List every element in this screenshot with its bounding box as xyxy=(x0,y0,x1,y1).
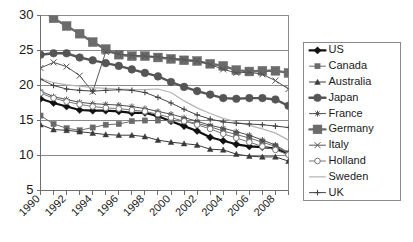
data-point-marker xyxy=(206,91,214,99)
series-layer xyxy=(36,4,293,163)
x-axis-label-1992: 1992 xyxy=(42,192,68,218)
data-point-marker xyxy=(155,118,160,123)
y-axis-label-25: 25 xyxy=(19,42,33,57)
data-point-marker xyxy=(233,135,239,141)
legend-label-italy: Italy xyxy=(329,138,350,150)
data-point-marker xyxy=(77,88,83,94)
legend-label-holland: Holland xyxy=(329,154,366,166)
data-point-marker xyxy=(116,121,121,126)
data-point-marker xyxy=(181,118,187,124)
chart-figure: 51015202530 1990199219941996199820002002… xyxy=(0,0,413,242)
data-point-marker xyxy=(90,104,96,110)
data-point-marker xyxy=(181,107,187,113)
data-point-marker xyxy=(272,96,280,104)
data-point-marker xyxy=(51,59,57,65)
ytick-labels: 51015202530 xyxy=(19,7,33,197)
legend-label-us: US xyxy=(329,43,344,55)
data-point-marker xyxy=(168,115,174,121)
x-axis-label-2008: 2008 xyxy=(251,192,277,218)
data-point-marker xyxy=(64,86,70,92)
data-point-marker xyxy=(62,22,71,31)
data-point-marker xyxy=(51,95,57,101)
data-point-marker xyxy=(232,95,240,103)
data-point-marker xyxy=(286,152,292,158)
data-point-marker xyxy=(286,125,292,131)
data-point-marker xyxy=(38,122,44,127)
data-point-marker xyxy=(180,83,188,91)
data-point-marker xyxy=(51,121,56,126)
legend: USCanadaAustraliaJapanFranceGermanyItaly… xyxy=(304,43,401,201)
data-point-marker xyxy=(285,102,293,110)
legend-label-australia: Australia xyxy=(329,75,373,87)
data-point-marker xyxy=(315,64,320,69)
data-point-marker xyxy=(129,88,135,94)
data-point-marker xyxy=(194,127,201,134)
series-line-germany xyxy=(41,9,289,73)
data-point-marker xyxy=(64,64,70,70)
legend-label-uk: UK xyxy=(329,186,345,198)
data-point-marker xyxy=(273,147,279,153)
legend-label-france: France xyxy=(329,107,363,119)
data-point-marker xyxy=(313,125,322,134)
data-point-marker xyxy=(260,144,266,150)
x-axis-label-1990: 1990 xyxy=(16,192,42,218)
data-point-marker xyxy=(194,122,200,128)
data-point-marker xyxy=(233,129,239,135)
data-point-marker xyxy=(154,73,162,81)
x-axis-label-1994: 1994 xyxy=(68,192,94,218)
y-axis-label-30: 30 xyxy=(19,7,33,22)
data-point-marker xyxy=(103,122,108,127)
legend-label-germany: Germany xyxy=(329,122,375,134)
data-point-marker xyxy=(207,116,213,122)
data-point-marker xyxy=(50,50,58,58)
x-axis-label-2000: 2000 xyxy=(147,192,173,218)
data-point-marker xyxy=(155,95,161,101)
data-point-marker xyxy=(314,94,322,102)
x-axis-label-2004: 2004 xyxy=(199,192,225,218)
data-point-marker xyxy=(207,134,214,141)
data-point-marker xyxy=(116,87,122,93)
data-point-marker xyxy=(75,29,84,38)
data-point-marker xyxy=(155,111,161,117)
data-point-marker xyxy=(273,123,279,129)
data-point-marker xyxy=(77,73,83,79)
legend-label-sweden: Sweden xyxy=(329,170,369,182)
data-point-marker xyxy=(129,119,134,124)
data-point-marker xyxy=(219,94,227,102)
data-point-marker xyxy=(246,94,254,102)
data-point-marker xyxy=(193,87,201,95)
data-point-marker xyxy=(194,112,200,118)
data-point-marker xyxy=(142,109,148,115)
y-axis-label-20: 20 xyxy=(19,77,33,92)
x-axis-label-2002: 2002 xyxy=(173,192,199,218)
data-point-marker xyxy=(271,66,280,75)
data-point-marker xyxy=(207,126,213,132)
x-axis-label-1996: 1996 xyxy=(94,192,120,218)
data-point-marker xyxy=(142,118,147,123)
data-point-marker xyxy=(129,107,135,113)
data-point-marker xyxy=(259,94,267,102)
axes-layer xyxy=(37,16,289,195)
data-point-marker xyxy=(128,66,136,74)
x-axis-label-2006: 2006 xyxy=(225,192,251,218)
legend-label-japan: Japan xyxy=(329,91,359,103)
y-axis-label-10: 10 xyxy=(19,147,33,162)
data-point-marker xyxy=(168,100,174,106)
data-point-marker xyxy=(38,90,44,96)
y-axis-label-15: 15 xyxy=(19,112,33,127)
data-point-marker xyxy=(284,69,293,78)
legend-label-canada: Canada xyxy=(329,59,368,71)
data-point-marker xyxy=(141,69,149,77)
series-australia xyxy=(38,122,292,164)
x-axis-label-1998: 1998 xyxy=(121,192,147,218)
data-point-marker xyxy=(167,78,175,86)
data-point-marker xyxy=(116,106,122,112)
data-point-marker xyxy=(220,131,226,137)
data-point-marker xyxy=(220,119,226,125)
data-point-marker xyxy=(115,62,123,70)
data-point-marker xyxy=(260,122,266,128)
data-point-marker xyxy=(90,125,95,130)
data-point-marker xyxy=(315,111,321,117)
data-point-marker xyxy=(76,54,84,62)
data-point-marker xyxy=(89,57,97,65)
